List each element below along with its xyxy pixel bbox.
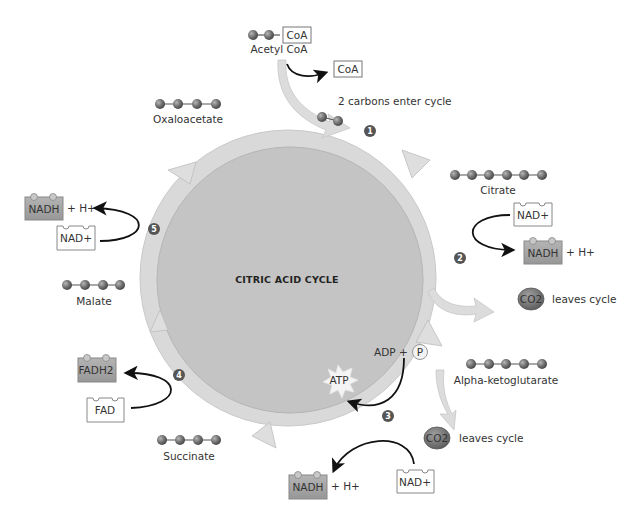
svg-text:+ H+: + H+ [331,480,360,492]
svg-text:5: 5 [151,225,157,234]
acetyl-coa-label: Acetyl CoA [251,43,309,55]
step3-co2: CO2 leaves cycle [424,427,523,449]
coa-release-arrow [287,64,325,76]
enter-note: 2 carbons enter cycle [338,95,452,107]
svg-text:NADH: NADH [28,203,59,215]
step-badge-3: 3 [382,410,394,422]
svg-text:NAD+: NAD+ [60,232,92,244]
step-badge-2: 2 [454,252,466,264]
svg-text:Succinate: Succinate [163,450,214,462]
step4-fadh2: FADH2 [78,355,116,383]
svg-text:Alpha-ketoglutarate: Alpha-ketoglutarate [454,374,558,386]
released-coa-label: CoA [338,63,360,75]
step3-nad-plus: NAD+ [397,470,434,493]
svg-text:ADP +: ADP + [374,346,408,358]
svg-text:Malate: Malate [76,295,111,307]
step3-nadh-arrow [334,441,414,470]
svg-text:4: 4 [176,371,182,380]
svg-text:+ H+: + H+ [566,246,595,258]
step-badge-1: 1 [364,125,376,137]
svg-text:+ H+: + H+ [67,202,96,214]
step-badge-4: 4 [173,369,185,381]
svg-text:NADH: NADH [527,247,558,259]
molecule-alpha-ketoglutarate: Alpha-ketoglutarate [454,359,558,386]
svg-text:FADH2: FADH2 [79,364,114,376]
svg-text:CO2: CO2 [520,293,542,305]
svg-text:Citrate: Citrate [480,184,516,196]
step3-adp: ADP + P [374,345,428,360]
step-badge-5: 5 [148,223,160,235]
step5-arrow [96,208,139,241]
svg-text:CO2: CO2 [426,432,448,444]
released-coa: CoA [334,61,362,77]
svg-text:NAD+: NAD+ [399,476,431,488]
coa-box-label: CoA [287,29,309,41]
svg-text:leaves cycle: leaves cycle [552,293,616,305]
step5-nadh: NADH + H+ [25,194,96,221]
citric-acid-cycle-diagram: CITRIC ACID CYCLE CoA Acetyl CoA CoA 2 c… [0,0,625,523]
step2-nadh: NADH + H+ [524,238,595,265]
svg-text:ATP: ATP [329,374,348,386]
co2-exit-arrow-2 [428,288,494,322]
svg-text:NADH: NADH [292,481,323,493]
svg-text:FAD: FAD [95,404,115,416]
molecule-citrate: Citrate [450,170,547,196]
step4-arrow [127,373,171,408]
step5-nad-plus: NAD+ [57,226,95,250]
svg-text:3: 3 [385,412,391,421]
step2-arrow [473,215,512,250]
molecule-succinate: Succinate [157,435,221,462]
molecule-oxaloacetate: Oxaloacetate [153,99,223,125]
step3-nadh: NADH + H+ [289,472,360,500]
svg-text:1: 1 [367,127,373,136]
step4-fad: FAD [87,398,124,422]
molecule-malate: Malate [62,280,125,307]
svg-text:Oxaloacetate: Oxaloacetate [153,113,223,125]
acetyl-coa: CoA Acetyl CoA [248,27,311,55]
svg-text:P: P [417,346,423,358]
cycle-title: CITRIC ACID CYCLE [235,274,339,285]
svg-text:NAD+: NAD+ [517,209,549,221]
svg-text:leaves cycle: leaves cycle [459,432,523,444]
step2-nad-plus: NAD+ [514,203,552,226]
step2-co2: CO2 leaves cycle [518,288,616,310]
svg-text:2: 2 [457,254,463,263]
